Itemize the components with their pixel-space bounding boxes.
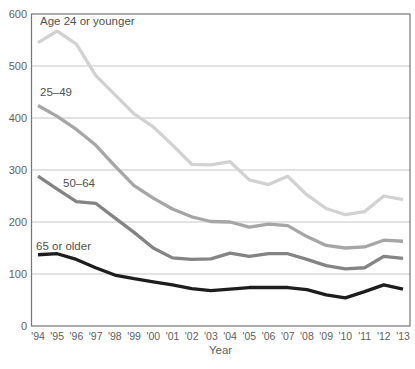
x-tick-label: '97 <box>89 330 103 342</box>
series-label-50-64: 50–64 <box>63 177 96 189</box>
x-tick-label: '10 <box>339 330 353 342</box>
x-axis-title: Year <box>209 344 232 356</box>
y-tick-label: 300 <box>9 164 27 176</box>
chart-canvas: 0100200300400500600'94'95'96'97'98'99'00… <box>0 0 415 369</box>
x-tick-label: '99 <box>127 330 141 342</box>
x-tick-label: '03 <box>204 330 218 342</box>
series-label-65-or-older: 65 or older <box>36 240 91 252</box>
x-tick-label: '06 <box>262 330 276 342</box>
x-tick-label: '04 <box>223 330 237 342</box>
x-tick-label: '95 <box>50 330 64 342</box>
series-line-65-or-older <box>38 254 403 298</box>
x-tick-label: '11 <box>358 330 371 342</box>
y-tick-label: 400 <box>9 112 27 124</box>
y-tick-label: 100 <box>9 268 27 280</box>
x-tick-label: '94 <box>31 330 45 342</box>
x-tick-label: '12 <box>377 330 391 342</box>
y-tick-label: 600 <box>9 8 27 20</box>
y-tick-label: 500 <box>9 60 27 72</box>
x-tick-label: '05 <box>242 330 256 342</box>
series-label-age-24-or-younger: Age 24 or younger <box>40 15 135 27</box>
x-tick-label: '01 <box>166 330 180 342</box>
x-tick-label: '96 <box>70 330 84 342</box>
x-tick-label: '13 <box>396 330 410 342</box>
y-tick-label: 0 <box>21 320 27 332</box>
x-tick-label: '00 <box>146 330 160 342</box>
y-tick-label: 200 <box>9 216 27 228</box>
series-label-25-49: 25–49 <box>40 86 72 98</box>
x-tick-label: '08 <box>300 330 314 342</box>
x-tick-label: '02 <box>185 330 199 342</box>
x-tick-label: '98 <box>108 330 122 342</box>
x-tick-label: '07 <box>281 330 295 342</box>
line-chart: 0100200300400500600'94'95'96'97'98'99'00… <box>0 0 415 369</box>
x-tick-label: '09 <box>319 330 333 342</box>
